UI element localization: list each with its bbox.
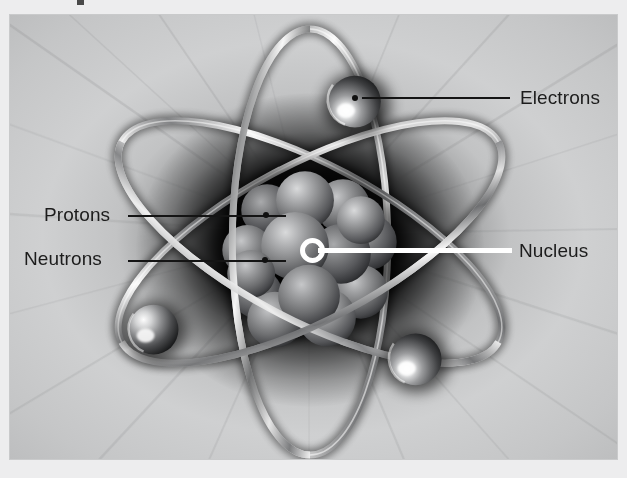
label-electrons: Electrons [520,88,600,107]
atom-diagram-canvas [10,15,617,459]
label-protons: Protons [44,205,110,224]
leader-line-electrons [362,97,510,99]
leader-line-nucleus [318,248,512,253]
leader-anchor-electrons [352,95,358,101]
atom-illustration [10,15,617,459]
cropped-heading-descender [77,0,84,5]
label-neutrons: Neutrons [24,249,102,268]
leader-anchor-neutrons [262,257,268,263]
label-nucleus: Nucleus [519,241,588,260]
nucleon-particle [337,196,385,244]
electron-lower-left [123,302,187,362]
electron-lower-right [384,331,450,393]
page-background: Electrons Nucleus Protons Neutrons [0,0,627,478]
electron-top [323,73,391,137]
leader-anchor-nucleus-ring [300,238,325,263]
atom-diagram-figure [9,14,618,460]
leader-anchor-protons [263,212,269,218]
